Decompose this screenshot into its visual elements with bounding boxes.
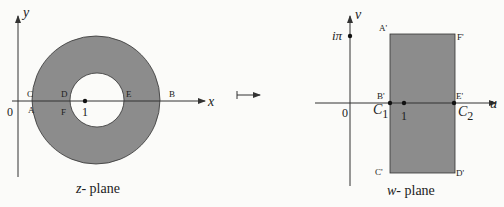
point-label-b-prime: B' xyxy=(377,91,385,101)
point-label-a-prime: A' xyxy=(379,23,387,33)
point-one-dot xyxy=(83,99,87,103)
annulus-region xyxy=(32,36,160,164)
z-plane-caption: z- plane xyxy=(75,181,120,196)
point-label-d: D xyxy=(61,89,68,99)
w-plane-caption: w- plane xyxy=(387,183,435,198)
i-pi-label: iπ xyxy=(332,28,343,43)
point-one-label: 1 xyxy=(82,105,88,119)
z-plane xyxy=(12,16,205,177)
conformal-map-diagram: y x 0 C A D F E B 1 z- plane v u 0 iπ A'… xyxy=(0,0,504,207)
point-label-e-prime: E' xyxy=(456,91,463,101)
point-label-e: E xyxy=(126,89,132,99)
w-plane xyxy=(315,16,496,186)
point-label-c-prime: C' xyxy=(375,167,383,177)
y-axis-label: y xyxy=(21,5,30,20)
v-axis-label: v xyxy=(355,7,362,22)
point-label-c: C xyxy=(27,89,33,99)
c2-label: C2 xyxy=(458,104,473,123)
maps-to-arrow xyxy=(237,91,260,99)
origin-label: 0 xyxy=(342,106,348,120)
x-axis-label: x xyxy=(207,94,215,109)
point-label-a: A xyxy=(28,105,35,115)
point-label-f: F xyxy=(61,107,66,117)
point-one-label: 1 xyxy=(401,109,407,123)
i-pi-dot xyxy=(348,34,352,38)
point-one-dot xyxy=(402,101,406,105)
point-label-f-prime: F' xyxy=(457,32,464,42)
c1-label: C1 xyxy=(373,102,388,121)
origin-label: 0 xyxy=(7,105,13,119)
c1-dot xyxy=(388,101,392,105)
point-label-d-prime: D' xyxy=(456,168,464,178)
u-axis-label: u xyxy=(490,96,497,111)
c2-dot xyxy=(452,101,456,105)
point-label-b: B xyxy=(169,89,175,99)
